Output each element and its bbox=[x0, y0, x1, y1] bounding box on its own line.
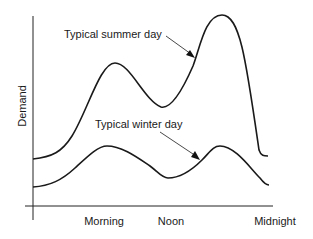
y-axis-label: Demand bbox=[16, 85, 28, 127]
winter-arrow-line bbox=[160, 132, 196, 156]
winter-annotation: Typical winter day bbox=[95, 118, 183, 130]
demand-chart: Demand Morning Noon Midnight Typical sum… bbox=[0, 0, 313, 239]
winter-curve bbox=[33, 146, 269, 187]
summer-annotation: Typical summer day bbox=[64, 28, 162, 40]
x-tick-morning: Morning bbox=[84, 215, 124, 227]
winter-arrow-head bbox=[191, 151, 200, 160]
x-tick-midnight: Midnight bbox=[254, 215, 296, 227]
summer-arrow-line bbox=[166, 36, 191, 54]
x-tick-noon: Noon bbox=[158, 215, 184, 227]
